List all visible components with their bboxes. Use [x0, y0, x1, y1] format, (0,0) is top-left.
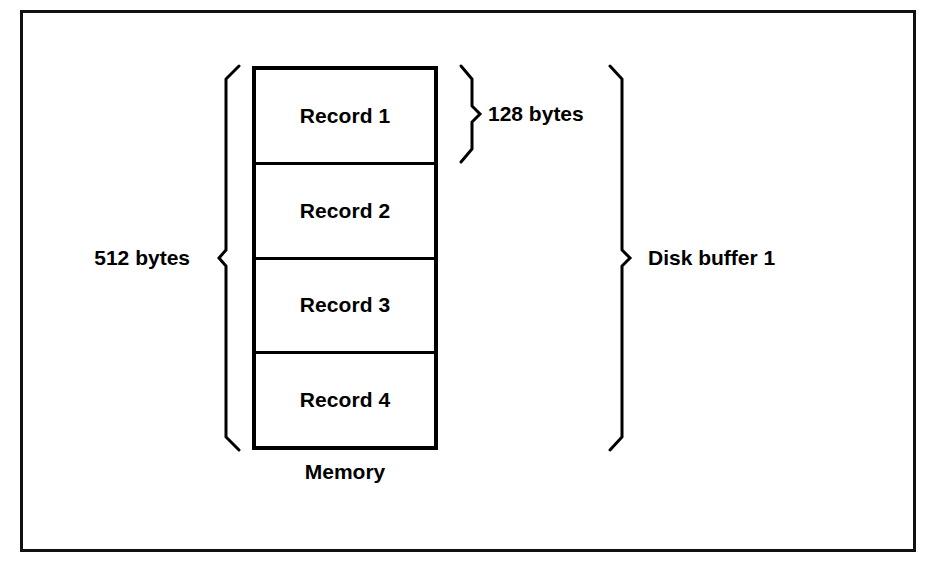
record-label-4: Record 4 — [300, 388, 391, 412]
memory-block: Record 1 Record 2 Record 3 Record 4 — [252, 66, 438, 450]
brace-disk-buffer — [606, 60, 634, 460]
label-128-bytes: 128 bytes — [488, 103, 584, 124]
record-label-3: Record 3 — [300, 293, 391, 317]
memory-caption: Memory — [252, 460, 438, 484]
brace-512-bytes — [218, 60, 242, 460]
brace-128-bytes-path — [461, 66, 480, 162]
record-label-2: Record 2 — [300, 199, 391, 223]
brace-128-bytes — [458, 60, 484, 176]
record-cell-1: Record 1 — [256, 70, 434, 165]
label-disk-buffer: Disk buffer 1 — [648, 247, 775, 268]
record-cell-3: Record 3 — [256, 260, 434, 355]
record-cell-4: Record 4 — [256, 354, 434, 446]
brace-512-bytes-path — [219, 66, 239, 450]
brace-disk-buffer-path — [610, 66, 630, 450]
record-cell-2: Record 2 — [256, 165, 434, 260]
label-512-bytes: 512 bytes — [84, 247, 190, 268]
record-label-1: Record 1 — [300, 104, 391, 128]
figure-canvas: Record 1 Record 2 Record 3 Record 4 Memo… — [0, 0, 926, 575]
